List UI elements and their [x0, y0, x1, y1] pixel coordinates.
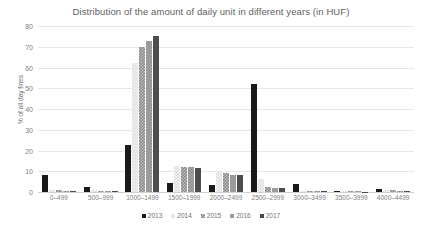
bar — [334, 191, 340, 192]
bar — [132, 63, 138, 192]
bar-group — [247, 26, 289, 192]
y-axis-tick-label: 80 — [25, 23, 33, 30]
bar-groups — [38, 26, 414, 192]
bar — [390, 190, 396, 192]
bar — [355, 191, 361, 192]
bar — [258, 179, 264, 192]
bar — [307, 191, 313, 192]
bar — [404, 191, 410, 192]
legend-label: 2016 — [236, 212, 250, 219]
bar — [181, 167, 187, 192]
chart-legend: 20132014201520162017 — [0, 212, 422, 219]
y-axis-title: % of all day fines — [17, 60, 24, 140]
x-axis-tick-label: 3000–3499 — [289, 194, 331, 202]
y-axis-tick-label: 0 — [29, 189, 33, 196]
bar — [230, 175, 236, 192]
y-axis-tick-label: 70 — [25, 43, 33, 50]
bar — [272, 188, 278, 192]
bar — [105, 191, 111, 192]
bar — [84, 187, 90, 192]
legend-label: 2014 — [177, 212, 191, 219]
bar-group — [163, 26, 205, 192]
bar — [321, 191, 327, 192]
bar — [146, 41, 152, 192]
bar — [63, 191, 69, 192]
x-axis-tick-label: 2000–2499 — [205, 194, 247, 202]
bar — [98, 191, 104, 192]
legend-item-2017[interactable]: 2017 — [260, 212, 280, 219]
legend-item-2016[interactable]: 2016 — [230, 212, 250, 219]
bar — [209, 185, 215, 192]
bar — [383, 190, 389, 192]
x-axis-tick-label: 2500–2999 — [247, 194, 289, 202]
legend-item-2015[interactable]: 2015 — [201, 212, 221, 219]
bar — [314, 191, 320, 192]
y-axis-tick-label: 30 — [25, 126, 33, 133]
x-axis-tick-label: 3500–3999 — [330, 194, 372, 202]
bar — [112, 191, 118, 192]
chart-container: Distribution of the amount of daily unit… — [0, 0, 422, 230]
bar — [167, 183, 173, 192]
bar — [70, 191, 76, 192]
bar-group — [122, 26, 164, 192]
legend-item-2014[interactable]: 2014 — [171, 212, 191, 219]
bar — [300, 191, 306, 192]
bar-group — [372, 26, 414, 192]
x-axis-tick-label: 500–999 — [80, 194, 122, 202]
y-axis-tick-label: 20 — [25, 147, 33, 154]
legend-swatch-icon — [142, 214, 146, 218]
bar — [223, 173, 229, 192]
bar — [125, 145, 131, 192]
bar — [251, 84, 257, 192]
bar — [42, 175, 48, 192]
bar — [188, 167, 194, 192]
bar — [341, 191, 347, 192]
bar — [376, 189, 382, 192]
bar-group — [289, 26, 331, 192]
x-axis-tick-label: 0–499 — [38, 194, 80, 202]
bar — [153, 36, 159, 192]
legend-swatch-icon — [230, 214, 234, 218]
bar — [237, 175, 243, 192]
bar — [91, 190, 97, 192]
bar — [139, 47, 145, 192]
bar-group — [205, 26, 247, 192]
bar — [49, 190, 55, 192]
y-axis-tick-label: 60 — [25, 64, 33, 71]
bar-group — [80, 26, 122, 192]
x-axis-tick-label: 1500–1999 — [163, 194, 205, 202]
y-axis-tick-label: 10 — [25, 168, 33, 175]
legend-swatch-icon — [260, 214, 264, 218]
bar — [56, 190, 62, 192]
x-axis-tick-label: 1000–1499 — [122, 194, 164, 202]
legend-swatch-icon — [171, 214, 175, 218]
x-axis-tick-label: 4000–4499 — [372, 194, 414, 202]
legend-label: 2013 — [148, 212, 162, 219]
chart-title: Distribution of the amount of daily unit… — [0, 6, 422, 17]
bar — [216, 172, 222, 192]
bar — [174, 166, 180, 192]
legend-label: 2017 — [266, 212, 280, 219]
legend-item-2013[interactable]: 2013 — [142, 212, 162, 219]
bar — [397, 191, 403, 192]
legend-swatch-icon — [201, 214, 205, 218]
bar-group — [330, 26, 372, 192]
legend-label: 2015 — [207, 212, 221, 219]
bar — [279, 188, 285, 192]
bar — [195, 168, 201, 192]
y-axis-tick-label: 50 — [25, 85, 33, 92]
plot-area: 01020304050607080 — [38, 26, 414, 192]
bar — [348, 191, 354, 192]
bar — [293, 184, 299, 192]
gridline: 0 — [38, 192, 414, 193]
bar — [265, 187, 271, 192]
y-axis-tick-label: 40 — [25, 106, 33, 113]
bar-group — [38, 26, 80, 192]
x-axis-labels: 0–499500–9991000–14991500–19992000–24992… — [38, 194, 414, 202]
